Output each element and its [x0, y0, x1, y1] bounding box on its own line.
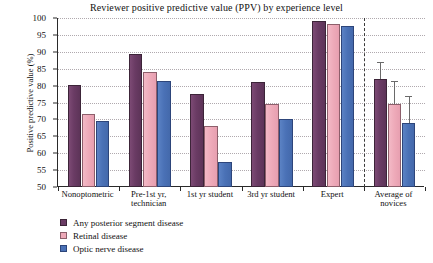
bar: [82, 114, 96, 187]
chart-title: Reviewer positive predictive value (PPV)…: [0, 2, 433, 13]
chart-legend: Any posterior segment diseaseRetinal dis…: [60, 216, 183, 255]
legend-item: Any posterior segment disease: [60, 216, 183, 229]
x-axis-tick-labels: NonoptometricPre-1st yr,technician1st yr…: [57, 190, 424, 214]
bar: [129, 54, 143, 188]
bar: [265, 104, 279, 187]
bar: [374, 79, 388, 187]
bar: [96, 121, 110, 187]
y-axis-tick-label: 60: [6, 148, 46, 158]
error-bar-cap: [391, 81, 398, 82]
legend-swatch: [60, 232, 67, 239]
y-axis-tick-label: 100: [6, 13, 46, 23]
plot-area: [57, 18, 424, 187]
y-axis-tick-label: 95: [6, 30, 46, 40]
bar: [218, 162, 232, 187]
y-axis-tick-label: 55: [6, 165, 46, 175]
legend-swatch: [60, 245, 67, 252]
error-bar: [380, 62, 381, 79]
bar: [388, 104, 402, 187]
bar: [157, 81, 171, 187]
bar: [327, 24, 341, 187]
y-axis-tick-label: 65: [6, 131, 46, 141]
bar: [190, 94, 204, 187]
y-axis-tick-label: 70: [6, 114, 46, 124]
bar: [341, 26, 355, 187]
bar: [312, 21, 326, 187]
error-bar-cap: [377, 62, 384, 63]
bar: [279, 119, 293, 187]
error-bar: [409, 96, 410, 123]
bar: [68, 85, 82, 187]
x-axis-tick-label-line: technician: [111, 199, 186, 208]
x-axis-tick-label-line: novices: [356, 199, 431, 208]
y-axis-tick-label: 85: [6, 64, 46, 74]
bar: [402, 123, 416, 187]
y-axis-tick-label: 75: [6, 98, 46, 108]
error-bar: [394, 81, 395, 105]
bar-series-layer: [58, 18, 425, 187]
y-axis-tick-label: 50: [6, 182, 46, 192]
group-separator-line: [364, 18, 365, 187]
legend-item: Optic nerve disease: [60, 242, 183, 255]
y-axis-tick-label: 80: [6, 81, 46, 91]
legend-swatch: [60, 219, 67, 226]
legend-label: Any posterior segment disease: [73, 218, 183, 228]
legend-label: Retinal disease: [73, 231, 127, 241]
y-axis-tick-labels: 50556065707580859095100: [0, 18, 57, 187]
legend-item: Retinal disease: [60, 229, 183, 242]
bar: [251, 82, 265, 187]
legend-label: Optic nerve disease: [73, 244, 143, 254]
chart-container: Reviewer positive predictive value (PPV)…: [0, 0, 433, 263]
y-axis-tick-label: 90: [6, 47, 46, 57]
bar: [204, 126, 218, 187]
bar: [143, 72, 157, 187]
x-axis-tick-label: Average ofnovices: [356, 190, 431, 209]
error-bar-cap: [405, 96, 412, 97]
